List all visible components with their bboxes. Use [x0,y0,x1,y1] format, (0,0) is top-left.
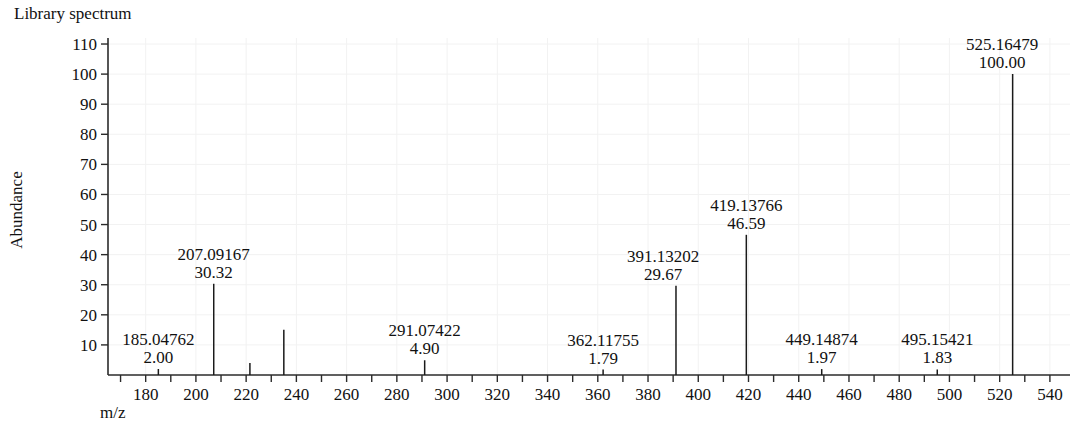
x-axis-tick-label: 380 [635,385,661,404]
x-axis-tick-label: 340 [535,385,561,404]
peak-abundance-label: 2.00 [143,348,173,367]
x-axis-label: m/z [100,403,126,422]
peak-abundance-label: 29.67 [644,265,683,284]
y-axis-tick-label: 80 [80,125,97,144]
y-axis-tick-label: 20 [80,306,97,325]
peak-abundance-label: 1.79 [588,349,618,368]
peak-mz-label: 391.13202 [627,247,699,266]
y-axis-tick-label: 30 [80,276,97,295]
y-axis-label: Abundance [7,171,26,248]
x-axis-tick-label: 520 [987,385,1013,404]
x-axis-tick-label: 180 [133,385,159,404]
mass-spectrum-chart: Library spectrum Abundance m/z 102030405… [0,0,1084,427]
y-axis-tick-label: 40 [80,246,97,265]
y-axis-tick-label: 100 [72,65,98,84]
x-axis-tick-label: 240 [284,385,310,404]
peak-mz-label: 449.14874 [786,330,859,349]
peak-mz-label: 525.16479 [966,35,1038,54]
y-axis-tick-label: 10 [80,336,97,355]
x-axis-tick-label: 500 [937,385,963,404]
x-axis-tick-label: 440 [786,385,812,404]
chart-title: Library spectrum [14,4,132,23]
peak-abundance-label: 4.90 [410,339,440,358]
peak-abundance-label: 100.00 [979,53,1026,72]
x-axis-tick-label: 400 [686,385,712,404]
x-axis-tick-label: 540 [1037,385,1063,404]
peak-abundance-label: 46.59 [727,214,765,233]
peak-mz-label: 207.09167 [178,245,251,264]
x-axis-tick-label: 420 [736,385,762,404]
y-axis-tick-label: 110 [72,35,97,54]
x-axis-tick-label: 320 [485,385,511,404]
x-axis-tick-label: 360 [585,385,611,404]
x-axis-tick-label: 220 [233,385,259,404]
peak-mz-label: 362.11755 [567,331,639,350]
x-axis-tick-label: 300 [434,385,460,404]
y-axis-tick-label: 70 [80,155,97,174]
peak-abundance-label: 1.83 [922,348,952,367]
x-axis-tick-label: 480 [886,385,912,404]
x-axis-tick-label: 200 [183,385,209,404]
y-axis-tick-label: 50 [80,216,97,235]
x-axis-tick-label: 260 [334,385,360,404]
spectrum-plot-area: Library spectrum Abundance m/z 102030405… [0,0,1084,427]
x-axis-tick-label: 460 [836,385,862,404]
peak-mz-label: 185.04762 [122,330,194,349]
peak-abundance-label: 30.32 [195,263,233,282]
peak-abundance-label: 1.97 [807,348,837,367]
y-axis-tick-label: 90 [80,95,97,114]
y-axis-tick-label: 60 [80,185,97,204]
peak-mz-label: 291.07422 [389,321,461,340]
peak-mz-label: 495.15421 [901,330,973,349]
x-axis-tick-label: 280 [384,385,410,404]
peak-mz-label: 419.13766 [710,196,782,215]
